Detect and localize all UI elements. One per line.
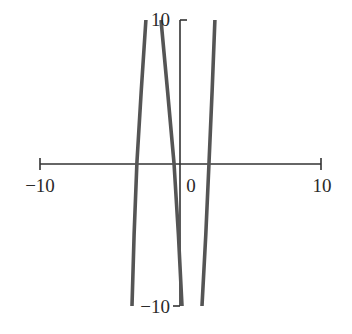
plot-area: −10 0 10 10 −10 [0, 0, 352, 334]
x-tick-label-zero: 0 [186, 175, 196, 196]
curve-branch-3 [202, 20, 215, 306]
tick-labels: −10 0 10 10 −10 [25, 9, 331, 317]
y-tick-label-min: −10 [140, 296, 170, 317]
x-tick-label-max: 10 [313, 175, 332, 196]
y-tick-label-max: 10 [151, 9, 170, 30]
x-tick-label-min: −10 [25, 175, 55, 196]
curve-branch-1 [132, 20, 146, 306]
curves [132, 20, 215, 306]
curve-branch-2 [161, 20, 182, 306]
